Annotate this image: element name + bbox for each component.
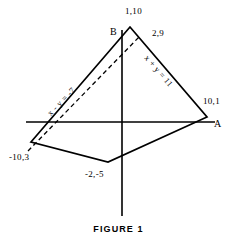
vertex-letter-b: B	[110, 27, 117, 37]
point-label-2-9: 2,9	[152, 28, 164, 38]
figure-caption: FIGURE 1	[0, 224, 237, 234]
point-label-neg2-neg5: -2,-5	[85, 169, 104, 179]
quadrilateral-shape	[31, 27, 207, 162]
point-label-1-10: 1,10	[125, 6, 142, 16]
point-label-neg10-3: -10,3	[9, 152, 29, 162]
figure-plot	[0, 0, 237, 243]
figure-container: 1,10 2,9 10,1 -2,-5 -10,3 B A x - y = -7…	[0, 0, 237, 243]
vertex-letter-a: A	[214, 119, 221, 129]
point-label-10-1: 10,1	[203, 96, 220, 106]
